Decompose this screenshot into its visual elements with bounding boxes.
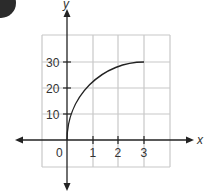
x-axis-right-arrow-icon [186,137,194,144]
x-tick-1-label: 1 [90,146,97,160]
x-tick-3-label: 3 [141,146,148,160]
curve [67,62,144,140]
x-tick-2-label: 2 [115,146,122,160]
y-tick-30-label: 30 [46,56,60,70]
y-tick-10-label: 10 [46,108,60,122]
y-axis-down-arrow-icon [64,183,71,191]
x-axis-left-arrow-icon [15,137,23,144]
origin-label: 0 [56,146,63,160]
y-axis-label: y [62,0,70,11]
chart: 0 1 2 3 30 20 10 x y [0,0,207,193]
x-axis-label: x [196,133,204,147]
y-tick-20-label: 20 [46,82,60,96]
